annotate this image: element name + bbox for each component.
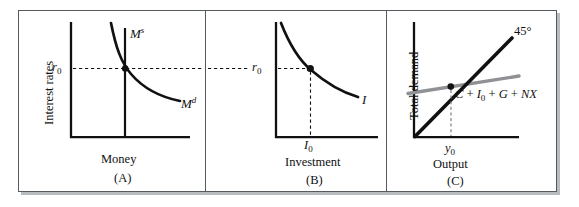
panel-b-investment-curve [281, 23, 358, 97]
panel-c-y-axis-title: Total demand [408, 52, 421, 120]
panel-b-r0-tick: r0 [252, 61, 261, 74]
panel-b-i0-tick: I0 [304, 139, 313, 152]
economics-figure: Interest rates r0 Ms Md Money (A) r0 I I… [0, 0, 579, 207]
panel-a-x-axis-title: Money [101, 153, 136, 166]
panel-b-investment-label: I [362, 93, 366, 106]
panel-a-plot [70, 22, 249, 138]
panel-b-plot [275, 22, 378, 138]
panel-c-x-axis-title: Output [433, 158, 468, 171]
panel-a-letter: (A) [114, 172, 131, 185]
panel-b-x-axis-title: Investment [285, 156, 341, 169]
panel-c-equilibrium-dot [448, 83, 455, 90]
panel-a-money-demand-label: Md [181, 96, 196, 110]
panel-c-letter: (C) [447, 175, 464, 188]
panel-a-equilibrium-dot [122, 65, 129, 72]
panel-a-money-supply-label: Ms [130, 26, 144, 40]
panel-b-letter: (B) [306, 174, 323, 187]
plot-vectors [0, 0, 579, 207]
panel-c-forty-five-label: 45° [514, 25, 532, 38]
panel-a-r0-tick: r0 [52, 61, 61, 74]
panel-b-equilibrium-dot [307, 65, 314, 72]
panel-c-y0-tick: y0 [445, 142, 455, 155]
panel-c-plot [408, 22, 519, 138]
panel-c-aggregate-demand-label: C + I0 + G + NX [455, 88, 537, 101]
panel-a-money-demand-curve [111, 23, 180, 101]
